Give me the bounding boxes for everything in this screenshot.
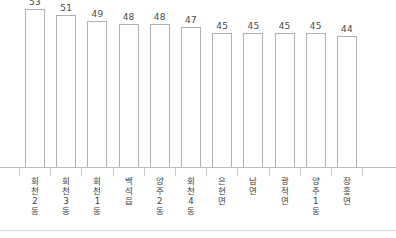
bar-chart: 5351494848474545454544 회 천 2 동회 천 3 동회 천…: [0, 0, 396, 238]
bar-slot: 44: [332, 0, 362, 167]
bar-value-label: 48: [114, 12, 144, 22]
category-tick-separator: [175, 168, 176, 176]
x-axis-line: [0, 167, 396, 168]
bar-value-label: 49: [82, 9, 112, 19]
category-label: 회 천 3 동: [51, 176, 81, 216]
bar[interactable]: [150, 24, 170, 167]
category-label: 광 적 면: [270, 176, 300, 206]
category-tick-separator: [19, 168, 20, 176]
bar[interactable]: [181, 27, 201, 167]
category-label: 백 석 읍: [114, 176, 144, 206]
category-tick-separator: [331, 168, 332, 176]
bar-value-label: 45: [238, 21, 268, 31]
bar-value-label: 45: [301, 21, 331, 31]
category-label: 회 천 2 동: [20, 176, 50, 216]
bar[interactable]: [275, 33, 295, 167]
bar-slot: 45: [238, 0, 268, 167]
bar-value-label: 45: [207, 21, 237, 31]
category-tick-separator: [237, 168, 238, 176]
bar-slot: 47: [176, 0, 206, 167]
category-label-band: 회 천 2 동회 천 3 동회 천 1 동백 석 읍양 주 2 동회 천 4 동…: [0, 176, 396, 228]
bar-value-label: 45: [270, 21, 300, 31]
category-label: 양 주 2 동: [145, 176, 175, 216]
bar-value-label: 48: [145, 12, 175, 22]
bar-slot: 49: [82, 0, 112, 167]
bar[interactable]: [87, 21, 107, 167]
bottom-frame-rule: [0, 230, 396, 231]
bar-value-label: 44: [332, 24, 362, 34]
category-tick-separator: [269, 168, 270, 176]
bar[interactable]: [119, 24, 139, 167]
bar-slot: 45: [270, 0, 300, 167]
category-tick-separator: [362, 168, 363, 176]
category-tick-separator: [50, 168, 51, 176]
bar[interactable]: [25, 9, 45, 167]
category-label: 장 흥 면: [332, 176, 362, 206]
category-tick-separator: [144, 168, 145, 176]
category-label: 은 현 면: [207, 176, 237, 206]
bar-slot: 51: [51, 0, 81, 167]
bar-slot: 48: [114, 0, 144, 167]
category-label: 회 천 4 동: [176, 176, 206, 216]
bar[interactable]: [243, 33, 263, 167]
bar-value-label: 53: [20, 0, 50, 7]
category-tick-separator: [113, 168, 114, 176]
category-label: 양 주 1 동: [301, 176, 331, 216]
bar[interactable]: [337, 36, 357, 167]
bar-slot: 45: [301, 0, 331, 167]
bar-slot: 53: [20, 0, 50, 167]
bar-value-label: 51: [51, 3, 81, 13]
bar-slot: 48: [145, 0, 175, 167]
category-tick-separator: [300, 168, 301, 176]
category-tick-separator: [206, 168, 207, 176]
bar[interactable]: [56, 15, 76, 167]
bar-value-label: 47: [176, 15, 206, 25]
category-label: 남 면: [238, 176, 268, 196]
bar[interactable]: [212, 33, 232, 167]
bar-slot: 45: [207, 0, 237, 167]
category-tick-separator: [81, 168, 82, 176]
plot-area: 5351494848474545454544: [0, 0, 396, 167]
category-label: 회 천 1 동: [82, 176, 112, 216]
bar[interactable]: [306, 33, 326, 167]
